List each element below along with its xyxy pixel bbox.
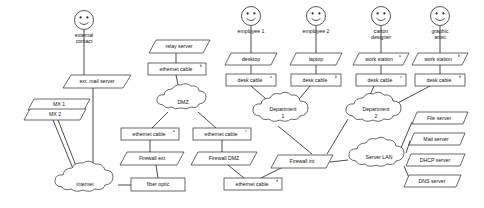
actor-employee-2[interactable]: employee 2 <box>303 7 330 34</box>
node-mx-2[interactable]: MX 2 <box>24 109 86 120</box>
node-label-superscript: d <box>276 179 278 183</box>
node-fiber-optic[interactable]: fiber optic <box>131 178 185 191</box>
cloud-label-line2: 1 <box>282 113 285 119</box>
node-label-superscript: a <box>399 54 401 58</box>
node-label-superscript: b <box>458 54 460 58</box>
node-firewall-int[interactable]: Firewall int <box>271 155 333 168</box>
actor-employee-1[interactable]: employee 1 <box>238 7 265 34</box>
node-work-station-a[interactable]: work station a <box>353 53 409 65</box>
smiley-face-icon <box>242 7 261 26</box>
node-label-superscript: b <box>200 64 202 68</box>
node-firewall-dmz[interactable]: Firewall DMZ <box>191 152 257 165</box>
node-relay-server[interactable]: relay server <box>149 40 210 53</box>
cloud-department-2[interactable]: Department 2 <box>346 92 401 121</box>
node-label: Firewall ext <box>139 155 166 161</box>
node-label: work station <box>424 56 452 62</box>
smiley-eye-left-icon <box>80 16 82 18</box>
smiley-eye-right-icon <box>318 12 320 14</box>
smiley-eye-left-icon <box>247 12 249 14</box>
smiley-eye-left-icon <box>312 12 314 14</box>
cloud-department-1[interactable]: Department 1 <box>253 92 308 121</box>
edge-server-lan-to-mail-server <box>406 141 410 153</box>
node-label: Firewall int <box>290 158 315 164</box>
actor-external-contact[interactable]: external contact <box>75 11 94 45</box>
node-file-server[interactable]: File server <box>412 112 468 124</box>
node-label: File server <box>427 115 451 121</box>
node-label: ethernet cable <box>236 181 269 187</box>
node-work-station-b[interactable]: work station b <box>412 53 468 65</box>
edge-ethernet-cable-d-to-firewall-int <box>261 167 283 178</box>
node-label: desk cable <box>303 77 328 83</box>
node-firewall-ext[interactable]: Firewall ext <box>120 152 184 165</box>
node-desk-cable-b[interactable]: desk cable b <box>291 74 341 86</box>
node-label-superscript: c <box>400 75 402 79</box>
node-label: ethernet cable <box>133 131 166 137</box>
actor-label-line1: employee 1 <box>238 28 265 34</box>
node-laptop[interactable]: laptop <box>290 53 342 65</box>
node-mail-server[interactable]: Mail server <box>409 133 465 145</box>
cloud-label-line2: 2 <box>375 113 378 119</box>
smiley-face-icon <box>75 11 94 30</box>
cloud-server-lan[interactable]: Server LAN <box>349 137 404 166</box>
actor-graphic-artist[interactable]: graphic artist <box>431 7 450 41</box>
node-dhcp-server[interactable]: DHCP server <box>406 154 465 166</box>
smiley-eye-right-icon <box>253 12 255 14</box>
node-label: desk cable <box>368 77 393 83</box>
node-label: laptop <box>309 56 323 62</box>
node-label: ethernet cable <box>205 131 238 137</box>
cloud-internet[interactable]: internet <box>55 161 113 191</box>
cloud-shape <box>349 137 404 166</box>
edge-firewall-dmz-to-ethernet-cable-d <box>228 165 244 178</box>
node-dns-server[interactable]: DNS server <box>404 175 461 187</box>
actor-carton-designer[interactable]: carton designer <box>371 7 391 41</box>
edge-dmz-to-ethernet-cable-a <box>152 112 168 128</box>
node-desktop[interactable]: desktop <box>225 53 277 65</box>
smiley-eye-right-icon <box>442 12 444 14</box>
node-label-superscript: b <box>335 75 337 79</box>
node-mx-1[interactable]: MX 1 <box>28 99 90 110</box>
edge-firewall-ext-to-fiber-optic <box>156 165 158 178</box>
node-label: desk cable <box>427 77 452 83</box>
node-ethernet-cable-b-relay[interactable]: ethernet cable b <box>148 63 206 75</box>
edge-firewall-int-to-server-lan <box>330 160 348 162</box>
cloud-label-line1: DMZ <box>177 99 188 105</box>
node-desk-cable-c[interactable]: desk cable c <box>356 74 406 86</box>
node-label-superscript: c <box>245 129 247 133</box>
node-desk-cable-d[interactable]: desk cable d <box>415 74 465 86</box>
actor-label-line2: designer <box>371 34 391 40</box>
edge-dmz-to-ethernet-cable-c <box>198 112 216 128</box>
node-label: ext. mail server <box>79 78 114 84</box>
node-label-superscript: d <box>459 75 461 79</box>
edge-department-2-to-firewall-int <box>327 119 348 154</box>
cloud-dmz[interactable]: DMZ <box>157 84 206 109</box>
edge-department-1-to-firewall-int <box>278 126 312 154</box>
node-label: desk cable <box>238 77 263 83</box>
node-ethernet-cable-a[interactable]: ethernet cable a <box>121 128 179 140</box>
actor-label-line2: artist <box>434 34 446 40</box>
node-label: relay server <box>165 43 192 49</box>
node-label: desktop <box>242 56 260 62</box>
node-label: MX 1 <box>53 101 65 107</box>
edge-server-lan-to-file-server <box>400 122 412 150</box>
node-desk-cable-a[interactable]: desk cable a <box>226 74 276 86</box>
cloud-label-line1: internet <box>76 181 94 187</box>
node-label-superscript: a <box>270 75 272 79</box>
node-ethernet-cable-c[interactable]: ethernet cable c <box>193 128 251 140</box>
node-label: MX 2 <box>49 111 61 117</box>
smiley-eye-left-icon <box>377 12 379 14</box>
node-ethernet-cable-d[interactable]: ethernet cable d <box>224 178 282 190</box>
smiley-eye-right-icon <box>383 12 385 14</box>
smiley-face-icon <box>431 7 450 26</box>
actor-label-line1: graphic <box>431 28 448 34</box>
actor-label-line1: carton <box>374 28 389 34</box>
node-label: DNS server <box>419 178 446 184</box>
node-label-superscript: a <box>173 129 175 133</box>
cloud-label-line1: Department <box>269 106 297 112</box>
node-label: fiber optic <box>147 181 170 187</box>
smiley-eye-left-icon <box>436 12 438 14</box>
node-label: Firewall DMZ <box>209 155 240 161</box>
cloud-label-line1: Server LAN <box>366 154 393 160</box>
node-ext-mail-server[interactable]: ext. mail server <box>63 75 131 88</box>
smiley-eye-right-icon <box>86 16 88 18</box>
actor-label-line1: employee 2 <box>303 28 330 34</box>
